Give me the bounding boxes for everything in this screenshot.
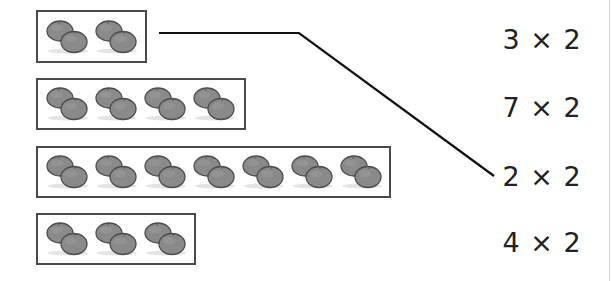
expression-0[interactable]: 3 × 2 (500, 24, 584, 55)
expression-2[interactable]: 2 × 2 (500, 161, 584, 192)
expression-1[interactable]: 7 × 2 (500, 92, 584, 123)
expression-3[interactable]: 4 × 2 (500, 227, 584, 258)
